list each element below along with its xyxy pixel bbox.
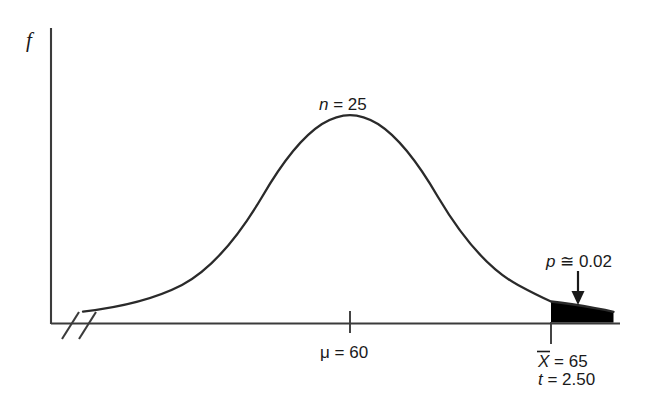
axis-break-slash-1 bbox=[62, 312, 79, 339]
sample-mean-label-value: = 65 bbox=[549, 352, 587, 371]
p-value-label: p ≅ 0.02 bbox=[545, 252, 612, 271]
y-axis-label: f bbox=[26, 28, 35, 52]
axis-break-slash-2 bbox=[79, 312, 96, 339]
shaded-tail-region bbox=[551, 302, 614, 323]
population-mean-label: μ = 60 bbox=[320, 343, 368, 362]
statistical-distribution-figure: f n = 25 μ = 60 p ≅ 0.02 X = 65 t = 2.50 bbox=[0, 0, 648, 407]
distribution-curve bbox=[83, 115, 614, 312]
distribution-chart: f n = 25 μ = 60 p ≅ 0.02 X = 65 t = 2.50 bbox=[0, 0, 648, 407]
p-value-label-symbol: p bbox=[545, 252, 555, 271]
p-value-label-value: ≅ 0.02 bbox=[555, 252, 612, 271]
sample-size-label-value: = 25 bbox=[328, 95, 366, 114]
population-mean-label-value: = 60 bbox=[330, 343, 368, 362]
p-value-arrow-head bbox=[572, 291, 585, 305]
sample-mean-label: X = 65 bbox=[537, 352, 588, 371]
t-statistic-label-value: = 2.50 bbox=[543, 370, 595, 389]
t-statistic-label: t = 2.50 bbox=[538, 370, 595, 389]
sample-size-label: n = 25 bbox=[319, 95, 367, 114]
population-mean-label-symbol: μ bbox=[320, 343, 330, 362]
sample-mean-label-symbol: X bbox=[537, 352, 550, 371]
sample-size-label-symbol: n bbox=[319, 95, 328, 114]
